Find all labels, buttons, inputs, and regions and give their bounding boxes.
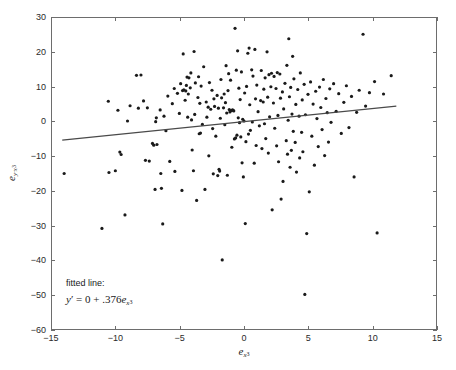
scatter-point — [161, 222, 164, 225]
scatter-point — [294, 141, 297, 144]
scatter-point — [203, 188, 206, 191]
scatter-point — [313, 164, 316, 167]
scatter-point — [280, 197, 283, 200]
y-axis-label: ey·x3 — [5, 165, 19, 181]
scatter-point — [217, 107, 220, 110]
scatter-point — [262, 100, 265, 103]
scatter-point — [179, 82, 182, 85]
scatter-point — [256, 110, 259, 113]
scatter-point — [303, 83, 306, 86]
scatter-point — [244, 222, 247, 225]
scatter-point — [308, 190, 311, 193]
scatter-point — [227, 72, 230, 75]
scatter-point — [294, 103, 297, 106]
scatter-point — [226, 89, 229, 92]
scatter-point — [368, 91, 371, 94]
scatter-point — [310, 135, 313, 138]
scatter-point — [301, 150, 304, 153]
scatter-point — [262, 88, 265, 91]
y-axis-tick — [433, 191, 437, 192]
scatter-point — [107, 100, 110, 103]
scatter-point — [168, 160, 171, 163]
scatter-point — [243, 91, 246, 94]
scatter-point — [202, 65, 205, 68]
y-axis-tick — [51, 260, 55, 261]
scatter-point — [199, 131, 202, 134]
scatter-point — [224, 64, 227, 67]
scatter-point — [107, 171, 110, 174]
scatter-point — [272, 101, 275, 104]
scatter-point — [187, 76, 190, 79]
scatter-point — [327, 140, 330, 143]
scatter-point — [255, 144, 258, 147]
scatter-point — [137, 107, 140, 110]
scatter-point — [221, 258, 224, 261]
x-axis-tick — [244, 17, 245, 21]
y-axis-tick — [433, 330, 437, 331]
scatter-point — [184, 99, 187, 102]
scatter-point — [288, 166, 291, 169]
figure-partial-regression-plot: −15−10−5051015 3020100−10−20−30−40−50−60… — [0, 0, 456, 370]
scatter-point — [207, 154, 210, 157]
y-axis-tick — [51, 87, 55, 88]
y-axis-tick — [51, 295, 55, 296]
scatter-point — [242, 175, 245, 178]
y-axis-tick — [51, 121, 55, 122]
scatter-point — [160, 187, 163, 190]
scatter-point — [235, 69, 238, 72]
scatter-point — [323, 154, 326, 157]
scatter-point — [142, 99, 145, 102]
x-axis-tick-label: 5 — [306, 333, 311, 343]
y-axis-label-base: e — [5, 176, 17, 181]
scatter-point — [128, 104, 131, 107]
scatter-point — [234, 136, 237, 139]
scatter-point — [198, 102, 201, 105]
scatter-point — [345, 84, 348, 87]
scatter-point — [265, 50, 268, 53]
scatter-point — [309, 80, 312, 83]
scatter-point — [249, 129, 252, 132]
y-axis-label-subsubscript: 3 — [11, 165, 17, 168]
scatter-point — [216, 94, 219, 97]
scatter-point — [350, 95, 353, 98]
scatter-point — [324, 97, 327, 100]
scatter-point — [301, 98, 304, 101]
scatter-point — [300, 131, 303, 134]
scatter-point — [192, 169, 195, 172]
scatter-point — [303, 293, 306, 296]
y-axis-tick — [433, 156, 437, 157]
scatter-point — [212, 97, 215, 100]
y-axis-tick — [433, 87, 437, 88]
scatter-point — [361, 33, 364, 36]
x-axis-label: ex3 — [239, 345, 250, 359]
scatter-point — [239, 135, 242, 138]
scatter-point — [139, 73, 142, 76]
scatter-point — [190, 118, 193, 121]
scatter-point — [218, 169, 221, 172]
scatter-point — [207, 106, 210, 109]
scatter-point — [222, 106, 225, 109]
scatter-point — [319, 106, 322, 109]
scatter-point — [281, 180, 284, 183]
scatter-point — [209, 108, 212, 111]
scatter-point — [245, 85, 248, 88]
scatter-point — [114, 169, 117, 172]
scatter-point — [116, 109, 119, 112]
scatter-points — [63, 27, 393, 296]
x-axis-tick-label: −5 — [175, 333, 185, 343]
scatter-point — [191, 148, 194, 151]
scatter-point — [355, 111, 358, 114]
scatter-point — [364, 105, 367, 108]
scatter-point — [287, 37, 290, 40]
scatter-point — [196, 96, 199, 99]
scatter-point — [272, 75, 275, 78]
x-axis-tick — [180, 326, 181, 330]
scatter-point — [299, 71, 302, 74]
scatter-point — [226, 174, 229, 177]
scatter-point — [185, 84, 188, 87]
scatter-point — [195, 199, 198, 202]
scatter-point — [186, 116, 189, 119]
x-axis-tick-label: 10 — [368, 333, 378, 343]
scatter-point — [352, 175, 355, 178]
scatter-point — [205, 100, 208, 103]
